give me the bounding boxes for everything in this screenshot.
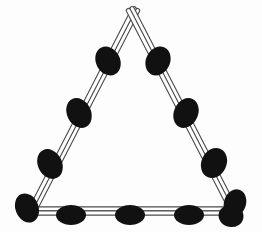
bead-bottom-1 <box>56 205 86 225</box>
bead-bottom-2 <box>115 205 145 225</box>
bead-bottom-3 <box>174 205 204 225</box>
beaded-triangle-figure <box>0 0 262 232</box>
figure-canvas <box>0 0 262 232</box>
